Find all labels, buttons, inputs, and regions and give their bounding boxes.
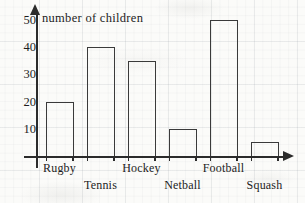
bar-rugby [46, 102, 74, 156]
y-tick-label: 20 [2, 95, 36, 108]
bar-squash [251, 142, 279, 156]
y-axis-line [36, 12, 38, 168]
bar-netball [169, 129, 197, 156]
bar-football [210, 20, 238, 156]
bar-chart-figure: number of children 1020304050 RugbyTenni… [0, 0, 305, 203]
category-label-squash: Squash [247, 178, 283, 193]
x-tick-netball-right [195, 156, 197, 161]
x-tick-squash-left [251, 156, 253, 161]
y-tick-label: 10 [2, 123, 36, 136]
x-axis-arrow-icon [283, 151, 294, 161]
category-label-tennis: Tennis [84, 178, 117, 193]
category-label-rugby: Rugby [43, 161, 76, 176]
y-tick-label: 30 [2, 68, 36, 81]
x-tick-tennis-right [113, 156, 115, 161]
chart-title: number of children [42, 11, 143, 26]
y-tick-label: 40 [2, 41, 36, 54]
x-tick-squash-right [277, 156, 279, 161]
category-label-football: Football [203, 161, 245, 176]
bar-tennis [87, 47, 115, 156]
category-label-hockey: Hockey [122, 161, 161, 176]
x-tick-tennis-left [87, 156, 89, 161]
category-label-netball: Netball [164, 178, 201, 193]
x-tick-netball-left [169, 156, 171, 161]
y-tick-label: 50 [2, 14, 36, 27]
bar-hockey [128, 61, 156, 156]
